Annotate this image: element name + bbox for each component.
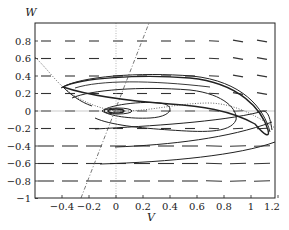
phase-plane-chart: −0.4−0.200.20.40.60.811.2 0.80.60.40.20−… [0,0,289,230]
direction-dash [206,163,222,164]
y-tick-label: 0.2 [15,88,31,99]
x-tick-label: −0.2 [77,201,101,212]
direction-dash [233,75,243,77]
x-tick-label: 0.8 [216,201,232,212]
direction-dash [230,181,246,182]
y-tick-label: −0.8 [7,176,31,187]
direction-dash [209,128,219,129]
direction-dash [257,40,267,42]
x-tick-label: 0.6 [189,201,205,212]
x-tick-label: 1.2 [264,201,280,212]
direction-dash [209,58,219,59]
direction-dash [209,93,219,94]
direction-dash [254,181,270,182]
y-tick-label: −1 [16,193,31,204]
y-axis-label: W [25,6,38,19]
x-axis-label: V [147,211,156,224]
direction-dash [257,93,267,95]
direction-dash [233,58,243,60]
direction-dash [257,75,267,77]
direction-dash [254,163,270,164]
direction-dash [233,128,243,129]
y-tick-label: −0.6 [7,158,31,169]
direction-dash [233,40,243,42]
y-tick-label: 0.8 [15,36,31,47]
trajectories [61,75,275,165]
x-tick-label: 1 [248,201,254,212]
direction-dash [209,41,219,42]
x-tick-label: −0.4 [50,201,74,212]
x-tick-label: 0 [113,201,119,212]
y-tick-label: 0 [25,106,31,117]
direction-dash [230,163,246,164]
direction-dash [257,58,267,60]
direction-dash [206,146,222,147]
y-tick-label: −0.2 [7,123,31,134]
direction-dash [206,181,222,182]
y-tick-label: 0.4 [15,71,31,82]
y-tick-label: 0.6 [15,53,31,64]
x-tick-label: 0.4 [162,201,178,212]
direction-dash [230,146,246,147]
y-axis-ticks: 0.80.60.40.20−0.2−0.4−0.6−0.8−1 [7,36,38,205]
direction-dash [209,76,219,77]
y-tick-label: −0.4 [7,141,31,152]
